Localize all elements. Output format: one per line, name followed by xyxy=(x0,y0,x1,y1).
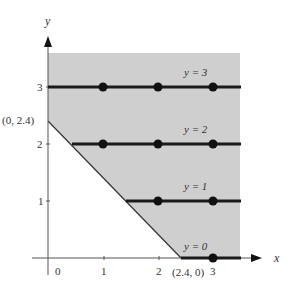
label-y2: y = 2 xyxy=(183,123,208,135)
label-y0: y = 0 xyxy=(183,240,208,252)
y-axis-arrow-icon xyxy=(44,36,52,47)
x-tick-2: 2 xyxy=(156,265,162,277)
y-tick-1: 1 xyxy=(38,195,44,207)
label-y3: y = 3 xyxy=(183,66,208,78)
x-axis-label: x xyxy=(273,251,280,265)
y-tick-2: 2 xyxy=(37,138,43,150)
x-intercept-label: (2.4, 0) xyxy=(172,266,204,279)
y-intercept-label: (0, 2.4) xyxy=(2,114,34,127)
y-axis-label: y xyxy=(44,14,51,28)
x-tick-0: 0 xyxy=(55,265,61,277)
x-tick-3: 3 xyxy=(210,265,216,277)
label-y1: y = 1 xyxy=(183,180,207,192)
x-axis-arrow-icon xyxy=(251,254,262,262)
x-tick-1: 1 xyxy=(101,265,107,277)
diagram: y = 3 y = 2 y = 1 y = 0 y x 0 1 2 3 1 2 … xyxy=(0,0,295,294)
y-tick-3: 3 xyxy=(37,81,43,93)
